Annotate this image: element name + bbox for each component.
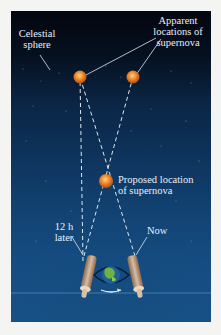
label-line: of supernova [118, 185, 210, 196]
proposed-supernova [99, 174, 113, 188]
label-line: Apparent [145, 15, 211, 26]
label-line: 12 h [47, 221, 81, 232]
label-line: Proposed location [118, 174, 210, 185]
label-12h-later: 12 h later [47, 221, 81, 243]
label-apparent-locations: Apparent locations of supernova [145, 15, 211, 48]
label-line: locations of [145, 26, 211, 37]
label-line: Now [147, 225, 177, 236]
apparent-supernova-left [74, 71, 87, 84]
celestial-sphere [11, 71, 211, 322]
diagram-panel: Celestial sphere Apparent locations of s… [11, 11, 211, 322]
label-celestial-sphere: Celestial sphere [13, 28, 61, 50]
label-line: supernova [145, 37, 211, 48]
diagram-art [11, 11, 211, 322]
label-line: sphere [13, 39, 61, 50]
label-line: later [47, 232, 81, 243]
label-line: Celestial [13, 28, 61, 39]
apparent-supernova-right [127, 71, 140, 84]
label-now: Now [147, 225, 177, 236]
label-proposed-location: Proposed location of supernova [118, 174, 210, 196]
